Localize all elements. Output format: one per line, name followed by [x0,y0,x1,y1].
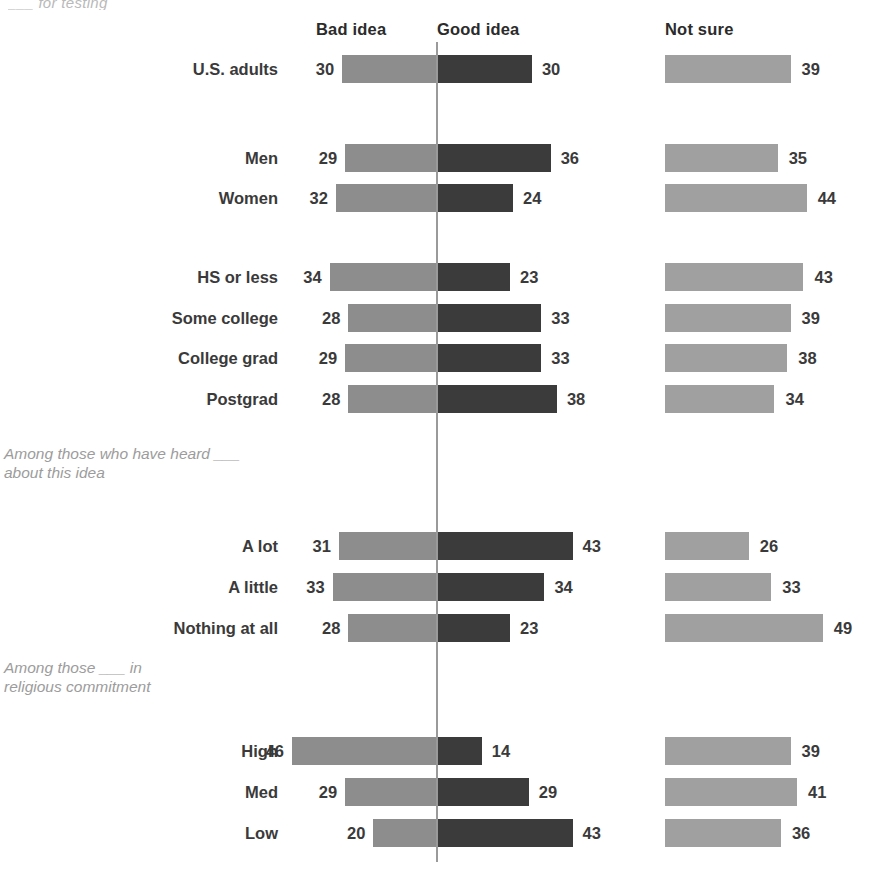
bar-good-idea [438,55,532,83]
row-label: Nothing at all [0,613,278,643]
value-not-sure: 41 [808,777,848,807]
bar-not-sure [665,573,771,601]
value-bad-idea: 20 [331,818,365,848]
value-good-idea: 38 [567,384,607,414]
value-good-idea: 30 [542,54,582,84]
row-label: A little [0,572,278,602]
value-bad-idea: 28 [306,303,340,333]
row-label: High [0,736,278,766]
bar-bad-idea [330,263,436,291]
bar-not-sure [665,144,778,172]
bar-not-sure [665,55,791,83]
bar-good-idea [438,819,573,847]
bar-not-sure [665,263,803,291]
bar-good-idea [438,304,541,332]
bar-good-idea [438,778,529,806]
value-good-idea: 33 [551,343,591,373]
value-good-idea: 29 [539,777,579,807]
bar-good-idea [438,344,541,372]
bar-bad-idea [333,573,436,601]
bar-not-sure [665,778,797,806]
chart-row: Nothing at all282349 [0,613,889,643]
bar-good-idea [438,385,557,413]
bar-not-sure [665,304,791,332]
bar-bad-idea [348,304,436,332]
bar-bad-idea [348,614,436,642]
column-header-bad-idea: Bad idea [316,20,386,39]
bar-not-sure [665,532,749,560]
value-good-idea: 23 [520,613,560,643]
value-not-sure: 33 [782,572,822,602]
value-not-sure: 39 [802,736,842,766]
value-not-sure: 44 [818,183,858,213]
value-good-idea: 23 [520,262,560,292]
value-bad-idea: 34 [288,262,322,292]
bar-good-idea [438,184,513,212]
column-header-good-idea: Good idea [437,20,519,39]
row-label: U.S. adults [0,54,278,84]
bar-bad-idea [339,532,436,560]
bar-bad-idea [345,144,436,172]
bar-not-sure [665,184,807,212]
value-not-sure: 49 [834,613,874,643]
value-good-idea: 34 [554,572,594,602]
value-not-sure: 43 [814,262,854,292]
chart-row: Women322444 [0,183,889,213]
bar-bad-idea [373,819,436,847]
value-not-sure: 39 [802,303,842,333]
value-good-idea: 14 [492,736,532,766]
row-label: Some college [0,303,278,333]
value-not-sure: 26 [760,531,800,561]
row-label: Men [0,143,278,173]
diverging-bar-chart: Bad idea Good idea Not sure Among those … [0,0,889,876]
value-not-sure: 35 [789,143,829,173]
chart-row: U.S. adults303039 [0,54,889,84]
bar-bad-idea [342,55,436,83]
chart-row: Low204336 [0,818,889,848]
value-bad-idea: 32 [294,183,328,213]
row-label: College grad [0,343,278,373]
bar-good-idea [438,614,510,642]
value-not-sure: 38 [798,343,838,373]
value-bad-idea: 29 [303,777,337,807]
chart-row: Men293635 [0,143,889,173]
chart-row: HS or less342343 [0,262,889,292]
bar-bad-idea [336,184,436,212]
chart-row: High461439 [0,736,889,766]
bar-not-sure [665,737,791,765]
row-label: Low [0,818,278,848]
value-bad-idea: 28 [306,384,340,414]
bar-bad-idea [345,344,436,372]
value-good-idea: 43 [583,531,623,561]
value-bad-idea: 29 [303,143,337,173]
chart-row: College grad293338 [0,343,889,373]
bar-not-sure [665,385,774,413]
group-note-religious-commitment: Among those ___ in religious commitment [4,658,334,696]
value-not-sure: 36 [792,818,832,848]
value-bad-idea: 29 [303,343,337,373]
bar-not-sure [665,614,823,642]
value-not-sure: 34 [785,384,825,414]
value-good-idea: 24 [523,183,563,213]
value-good-idea: 36 [561,143,601,173]
bar-bad-idea [292,737,436,765]
column-header-not-sure: Not sure [665,20,734,39]
row-label: Postgrad [0,384,278,414]
bar-not-sure [665,344,787,372]
value-bad-idea: 31 [297,531,331,561]
chart-row: Postgrad283834 [0,384,889,414]
row-label: A lot [0,531,278,561]
value-good-idea: 33 [551,303,591,333]
chart-row: Med292941 [0,777,889,807]
value-bad-idea: 46 [250,736,284,766]
group-note-heard-about: Among those who have heard ___ about thi… [4,444,334,482]
bar-bad-idea [348,385,436,413]
value-bad-idea: 33 [291,572,325,602]
row-label: Med [0,777,278,807]
row-label: Women [0,183,278,213]
chart-row: A lot314326 [0,531,889,561]
value-bad-idea: 30 [300,54,334,84]
bar-good-idea [438,263,510,291]
value-not-sure: 39 [802,54,842,84]
bar-bad-idea [345,778,436,806]
